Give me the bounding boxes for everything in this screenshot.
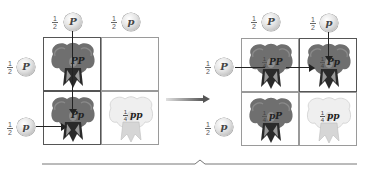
bracket-line <box>0 0 366 174</box>
